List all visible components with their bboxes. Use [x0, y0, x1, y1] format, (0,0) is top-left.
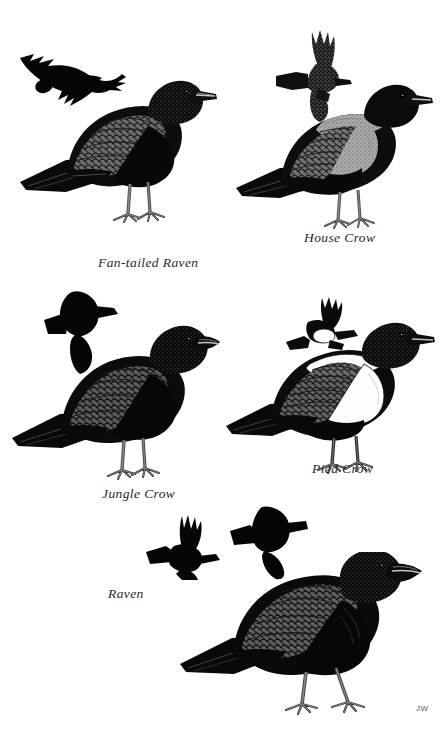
- caption-house-crow: House Crow: [304, 230, 375, 246]
- house-crow-perched-figure: [228, 70, 433, 250]
- caption-pied-crow: Pied Crow: [312, 461, 373, 477]
- caption-raven: Raven: [108, 586, 144, 602]
- illustration-plate: Fan-tailed Raven: [0, 0, 445, 731]
- caption-jungle-crow: Jungle Crow: [102, 486, 175, 502]
- artist-signature: JW: [416, 704, 429, 713]
- caption-fan-tailed-raven: Fan-tailed Raven: [98, 255, 199, 271]
- raven-perched-figure: [176, 552, 431, 727]
- fan-tailed-raven-perched-figure: [8, 60, 218, 250]
- jungle-crow-perched-figure: [6, 312, 221, 502]
- pied-crow-perched-figure: [222, 318, 437, 483]
